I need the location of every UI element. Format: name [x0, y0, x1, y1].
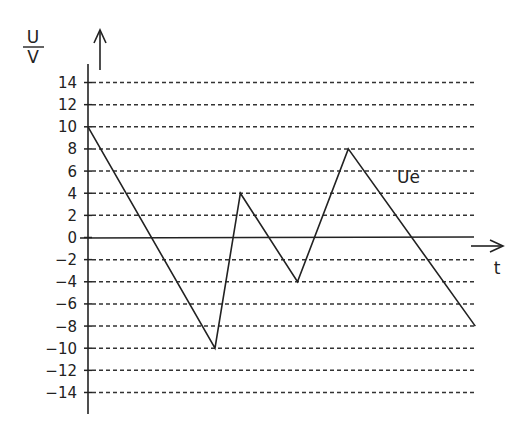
y-label-denominator: V: [27, 47, 39, 67]
x-axis-label: t: [494, 258, 501, 278]
y-tick-label: 6: [67, 163, 77, 181]
y-tick-label: −14: [45, 384, 77, 402]
y-tick-label: −12: [45, 362, 77, 380]
x-axis-arrow-icon: [471, 240, 503, 252]
y-tick-label: −6: [55, 295, 77, 313]
chart: 14121086420−2−4−6−8−10−12−14 U V t Ue: [0, 0, 523, 434]
y-tick-label: 0: [67, 229, 77, 247]
y-tick-label: 14: [58, 74, 77, 92]
y-axis-arrow-icon: [94, 30, 106, 70]
y-tick-label: −4: [55, 273, 77, 291]
series-ue-label: Ue: [397, 167, 420, 187]
y-axis-label: U V: [23, 27, 44, 67]
y-tick-label: 12: [58, 96, 77, 114]
y-label-numerator: U: [27, 27, 39, 47]
y-axis-tick-labels: 14121086420−2−4−6−8−10−12−14: [45, 74, 77, 402]
y-tick-label: −2: [55, 251, 77, 269]
y-tick-label: −10: [45, 340, 77, 358]
y-tick-label: 8: [67, 140, 77, 158]
y-tick-label: −8: [55, 318, 77, 336]
y-tick-label: 2: [67, 207, 77, 225]
y-tick-label: 10: [58, 118, 77, 136]
y-tick-label: 4: [67, 185, 77, 203]
x-axis-zero-line: [80, 237, 474, 238]
